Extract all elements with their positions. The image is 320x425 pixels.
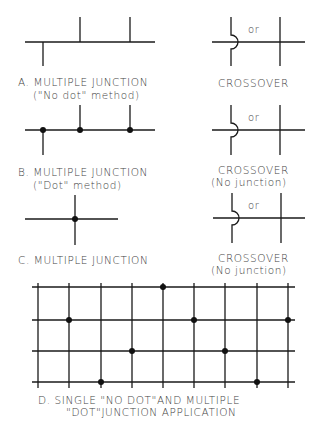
junction-dot (285, 317, 291, 323)
section-b-title: B. MULTIPLE JUNCTION (18, 166, 148, 178)
junction-dot (129, 348, 135, 354)
section-c-junction (25, 195, 118, 245)
section-b-subtitle: ("Dot" method) (33, 179, 122, 191)
junction-dot (222, 348, 228, 354)
section-a-crossover-title: CROSSOVER (218, 77, 289, 89)
section-d-grid (32, 283, 295, 388)
section-b-crossover-title: CROSSOVER (218, 164, 289, 176)
junction-dot (254, 379, 260, 385)
section-c-or-label: or (248, 200, 259, 212)
section-d-title-line2: "DOT"JUNCTION APPLICATION (66, 406, 236, 418)
junction-dot (66, 317, 72, 323)
section-a-or-label: or (248, 24, 259, 36)
section-b-crossover-subtitle: (No junction) (211, 176, 287, 188)
section-b-junction (25, 105, 155, 155)
section-c-crossover-subtitle: (No junction) (211, 264, 287, 276)
junction-dot (191, 317, 197, 323)
section-a-title: A. MULTIPLE JUNCTION (18, 76, 148, 88)
section-b-or-label: or (248, 112, 259, 124)
junction-dot (160, 284, 166, 290)
section-d-title-line1: D. SINGLE "NO DOT"AND MULTIPLE (38, 394, 240, 406)
section-c-title: C. MULTIPLE JUNCTION (18, 254, 148, 266)
section-a-subtitle: ("No dot" method) (33, 89, 140, 101)
section-a-junction (25, 17, 155, 66)
section-c-crossover-title: CROSSOVER (218, 252, 289, 264)
junction-dot (98, 379, 104, 385)
wiring-junction-diagram (0, 0, 320, 425)
